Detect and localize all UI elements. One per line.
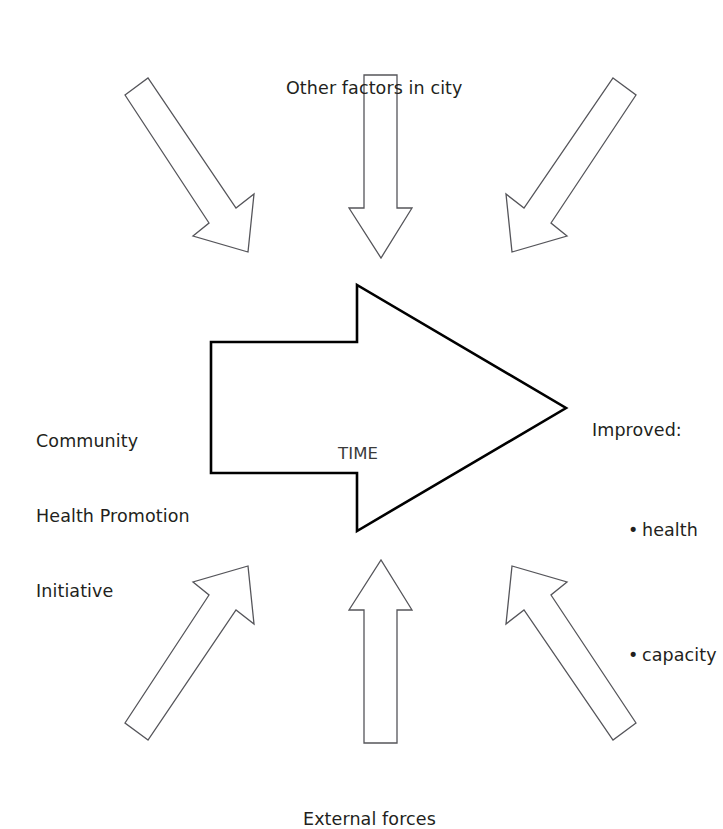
arrow-bottom-center-icon bbox=[349, 560, 412, 743]
label-initiative-line-1: Community bbox=[36, 429, 190, 454]
label-external-forces: External forces bbox=[303, 757, 436, 829]
label-improved-item-health: •health bbox=[592, 493, 717, 568]
label-time: TIME bbox=[338, 391, 378, 516]
time-arrow-icon bbox=[211, 285, 566, 531]
bullet-icon: • bbox=[628, 518, 642, 543]
label-time-text: TIME bbox=[338, 441, 378, 466]
label-other-factors: Other factors in city bbox=[286, 26, 463, 151]
label-initiative: Community Health Promotion Initiative bbox=[36, 379, 190, 654]
label-other-factors-text: Other factors in city bbox=[286, 76, 463, 101]
arrow-top-right-icon bbox=[506, 78, 636, 252]
arrow-top-left-icon bbox=[125, 78, 254, 252]
label-improved-item-capacity-text: capacity bbox=[642, 645, 717, 665]
label-initiative-line-2: Health Promotion bbox=[36, 504, 190, 529]
bullet-icon: • bbox=[628, 643, 642, 668]
label-improved: Improved: •health •capacity bbox=[592, 368, 717, 743]
label-external-forces-text: External forces bbox=[303, 807, 436, 829]
label-improved-item-health-text: health bbox=[642, 520, 698, 540]
label-improved-item-capacity: •capacity bbox=[592, 618, 717, 693]
label-improved-heading: Improved: bbox=[592, 418, 717, 443]
label-initiative-line-3: Initiative bbox=[36, 579, 190, 604]
